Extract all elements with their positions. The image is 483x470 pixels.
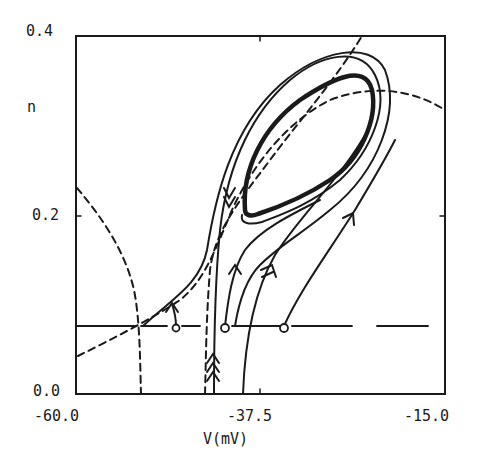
v-nullcline — [78, 91, 445, 356]
arrow-icon — [207, 354, 219, 381]
start-marker — [221, 324, 229, 332]
phase-plane-chart — [0, 0, 483, 470]
x-tick-mid: -37.5 — [227, 407, 272, 425]
n-nullcline — [205, 36, 362, 394]
x-axis-label: V(mV) — [203, 430, 248, 448]
limit-cycle — [245, 76, 373, 216]
y-tick-0-4: 0.4 — [26, 22, 53, 40]
left-dashed-branch — [77, 188, 141, 394]
start-marker — [280, 324, 288, 332]
x-tick-min: -60.0 — [34, 407, 79, 425]
x-tick-max: -15.0 — [404, 407, 449, 425]
arrow-icon — [261, 265, 276, 277]
y-tick-0-0: 0.0 — [33, 382, 60, 400]
y-tick-0-2: 0.2 — [32, 206, 59, 224]
y-axis-label: n — [27, 98, 36, 116]
start-marker — [173, 325, 180, 332]
